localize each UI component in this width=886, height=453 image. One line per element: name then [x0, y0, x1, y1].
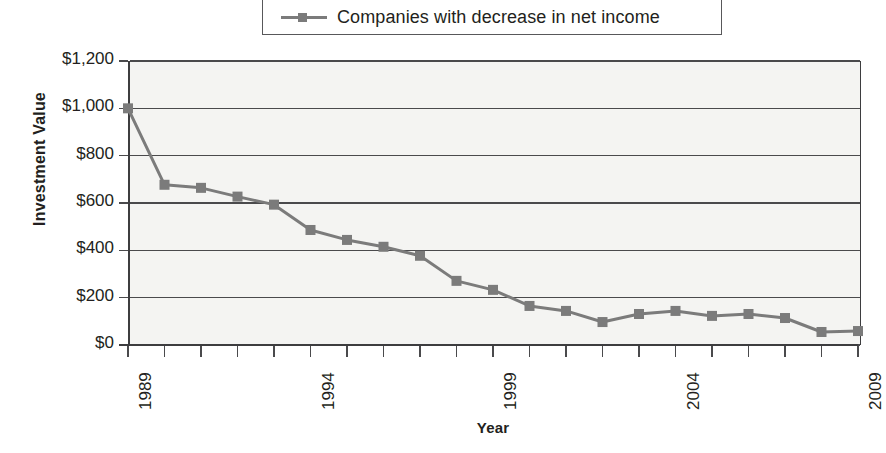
gridline — [130, 155, 860, 157]
gridline — [130, 202, 860, 204]
x-axis-tick-mark — [383, 346, 385, 357]
legend-entry-companies-with-decrease-in-net-income: Companies with decrease in net income — [281, 7, 660, 28]
x-axis-tick-mark — [602, 346, 604, 357]
gridline — [130, 60, 860, 62]
x-axis-tick-mark — [346, 346, 348, 357]
x-axis-title: Year — [128, 419, 858, 436]
x-axis-tick-mark — [821, 346, 823, 357]
y-axis-tick-mark — [119, 202, 128, 204]
x-axis-tick-mark — [237, 346, 239, 357]
x-axis-tick-label: 2004 — [684, 372, 704, 410]
plot-area — [128, 61, 861, 345]
x-axis-tick-mark — [273, 346, 275, 357]
x-axis-tick-label: 1999 — [501, 372, 521, 410]
y-axis-tick-label: $200 — [76, 286, 114, 306]
legend-series-marker-icon — [281, 10, 327, 24]
gridline — [130, 250, 860, 252]
y-axis-tick-label: $800 — [76, 144, 114, 164]
gridline — [130, 297, 860, 299]
x-axis-tick-mark — [529, 346, 531, 357]
x-axis-tick-mark — [565, 346, 567, 357]
x-axis-tick-mark — [857, 346, 859, 357]
x-axis-tick-mark — [748, 346, 750, 357]
x-axis-tick-label: 2009 — [866, 372, 886, 410]
x-axis-tick-label: 1994 — [319, 372, 339, 410]
gridline — [130, 108, 860, 110]
y-axis-tick-label: $1,000 — [62, 96, 114, 116]
y-axis-tick-label: $1,200 — [62, 49, 114, 69]
y-axis-title: Investment Value — [31, 59, 49, 259]
chart-legend: Companies with decrease in net income — [262, 0, 722, 35]
x-axis-tick-label: 1989 — [136, 372, 156, 410]
y-axis-tick-label: $0 — [95, 333, 114, 353]
x-axis-tick-mark — [200, 346, 202, 357]
y-axis-tick-mark — [119, 155, 128, 157]
x-axis-tick-mark — [456, 346, 458, 357]
y-axis-tick-label: $400 — [76, 238, 114, 258]
x-axis-line — [119, 344, 858, 346]
x-axis-tick-mark — [127, 346, 129, 357]
y-axis-tick-mark — [119, 250, 128, 252]
x-axis-tick-mark — [419, 346, 421, 357]
x-axis-tick-mark — [164, 346, 166, 357]
x-axis-tick-mark — [638, 346, 640, 357]
x-axis-tick-mark — [492, 346, 494, 357]
y-axis-tick-mark — [119, 297, 128, 299]
x-axis-tick-mark — [310, 346, 312, 357]
x-axis-tick-mark — [675, 346, 677, 357]
y-axis-tick-label: $600 — [76, 191, 114, 211]
y-axis-tick-mark — [119, 60, 128, 62]
legend-entry-label: Companies with decrease in net income — [337, 7, 660, 28]
x-axis-tick-mark — [784, 346, 786, 357]
y-axis-tick-mark — [119, 108, 128, 110]
x-axis-tick-mark — [711, 346, 713, 357]
